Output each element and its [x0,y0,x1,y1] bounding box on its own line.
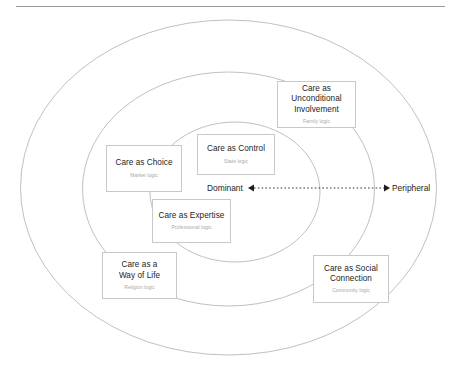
node-subtitle: Religion logic [124,283,154,291]
node-title: Care as Social Connection [324,264,378,285]
axis-label-peripheral: Peripheral [392,183,430,193]
dominant-peripheral-arrow [248,180,390,196]
node-care-as-unconditional-involvement[interactable]: Care as Unconditional Involvement Family… [277,81,356,128]
node-care-as-choice[interactable]: Care as Choice Market logic [106,145,182,192]
node-subtitle: Community logic [332,286,370,294]
node-subtitle: Professional logic [171,223,211,231]
node-subtitle: Market logic [130,171,158,179]
node-title: Care as Choice [115,158,172,169]
node-title: Care as Control [207,144,265,155]
node-title: Care as Expertise [159,211,225,222]
node-care-as-control[interactable]: Care as Control State logic [197,134,275,175]
diagram-canvas: Dominant Peripheral Care as Unconditiona… [0,0,457,380]
arrowhead-right [384,185,390,192]
node-care-as-expertise[interactable]: Care as Expertise Professional logic [152,199,231,243]
arrowhead-left [248,185,254,192]
node-title: Care as Unconditional Involvement [291,84,341,116]
node-care-as-a-way-of-life[interactable]: Care as a Way of Life Religion logic [102,252,177,299]
node-care-as-social-connection[interactable]: Care as Social Connection Community logi… [313,255,389,303]
node-subtitle: State logic [224,157,248,165]
node-subtitle: Family logic [303,117,330,125]
axis-label-dominant: Dominant [207,183,243,193]
node-title: Care as a Way of Life [119,260,160,281]
